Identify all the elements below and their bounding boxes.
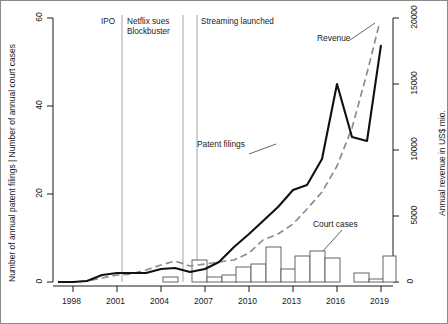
x-tick-2004: 2004 [150,296,169,306]
chart-figure: Number of annual patent filings | Number… [0,0,448,324]
series-label-revenue: Revenue [317,33,351,43]
table-row [354,273,369,282]
x-tick-2010: 2010 [238,296,257,306]
y-tick-right-15000: 15000 [409,62,419,104]
axis-left [47,18,53,282]
y-tick-left-60: 60 [34,6,44,28]
series-label-court-cases: Court cases [313,219,358,229]
patent-filings-leader-line [249,144,276,154]
table-row [310,251,325,282]
y-tick-right-5000: 5000 [409,196,419,234]
x-tick-2001: 2001 [106,296,125,306]
table-row [369,279,384,282]
x-tick-1998: 1998 [62,296,81,306]
table-row [295,256,310,282]
table-row [266,247,281,282]
series-patent-filings-line [58,45,381,282]
annotation-netflix-sues-blockbuster-line1: Netflix sues [127,17,169,28]
table-row [236,267,251,282]
y-tick-right-10000: 10000 [409,128,419,170]
revenue-leader-line [350,23,375,40]
series-revenue-line [58,25,379,282]
y-axis-left-title: Number of annual patent filings | Number… [3,1,21,324]
series-label-patent-filings: Patent filings [197,139,245,149]
y-tick-right-20000: 20000 [409,0,419,38]
x-tick-2007: 2007 [194,296,213,306]
table-row [207,277,222,282]
annotation-streaming-launched: Streaming launched [201,17,274,28]
x-tick-2019: 2019 [370,296,389,306]
chart-canvas [1,1,448,324]
table-row [163,277,178,282]
y-tick-left-20: 20 [34,182,44,204]
table-row [383,256,396,282]
table-row [281,269,296,282]
table-row [251,264,266,282]
court-cases-leader-line [323,230,342,251]
y-tick-left-40: 40 [34,94,44,116]
y-tick-left-0: 0 [34,270,44,292]
table-row [222,275,237,282]
y-axis-right-title: Annual revenue in US$ mio. [433,1,448,324]
y-tick-right-0: 0 [405,270,415,292]
annotation-ipo: IPO [101,17,115,28]
annotation-netflix-sues-blockbuster-line2: Blockbuster [127,27,170,38]
x-tick-2016: 2016 [326,296,345,306]
table-row [325,258,340,282]
event-lines [122,15,197,282]
axis-right [393,18,399,282]
axis-bottom [53,286,393,292]
x-tick-2013: 2013 [282,296,301,306]
